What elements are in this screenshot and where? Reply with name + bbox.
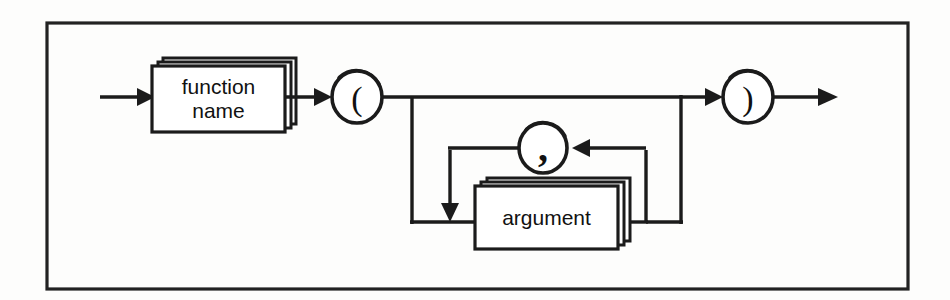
function-name-label-line2: name — [192, 99, 245, 122]
open-paren-label: ( — [351, 80, 362, 118]
argument-entry-arrowhead — [441, 203, 459, 222]
function-name-nonterminal[interactable]: function name — [152, 58, 296, 132]
syntax-diagram-root: function name ( — [0, 0, 950, 300]
close-paren-arrowhead — [705, 88, 723, 106]
function-name-label-line1: function — [182, 75, 256, 98]
comma-terminal[interactable]: , — [519, 123, 567, 173]
exit-path — [773, 88, 838, 106]
comma-loop-arrowhead — [572, 139, 590, 157]
comma-label: , — [538, 125, 548, 170]
close-paren-label: ) — [742, 80, 753, 118]
argument-rejoin-path — [646, 95, 683, 224]
exit-arrowhead — [818, 88, 838, 106]
close-paren-terminal[interactable]: ) — [723, 71, 773, 123]
open-paren-terminal[interactable]: ( — [332, 71, 382, 123]
railroad-diagram-svg: function name ( — [0, 0, 950, 300]
open-paren-arrowhead — [314, 88, 332, 106]
open-paren-to-close-paren-path — [382, 88, 723, 106]
argument-label: argument — [502, 206, 591, 229]
argument-nonterminal[interactable]: argument — [475, 178, 630, 249]
entry-path — [100, 88, 155, 106]
